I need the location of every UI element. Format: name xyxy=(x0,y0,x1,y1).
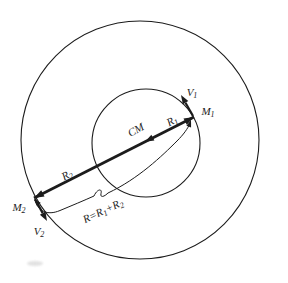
r-total-curve-right xyxy=(108,123,191,194)
figure-binary-orbits: V1 M1 CM R1 R2 M2 V2 R=R1+R2 xyxy=(0,0,288,283)
v1-vector xyxy=(186,103,194,116)
label-m2: M2 xyxy=(12,202,25,213)
label-v2: V2 xyxy=(34,226,45,237)
label-m1: M1 xyxy=(201,106,214,117)
r2-arrowhead xyxy=(34,190,45,198)
inner-orbit-circle xyxy=(92,89,200,197)
r-total-squiggle xyxy=(94,190,108,196)
cm-arrowhead xyxy=(145,135,154,142)
outer-orbit-circle xyxy=(21,21,259,259)
label-v1: V1 xyxy=(187,87,198,98)
binary-orbit-diagram xyxy=(0,0,288,283)
print-smudge xyxy=(27,261,43,266)
